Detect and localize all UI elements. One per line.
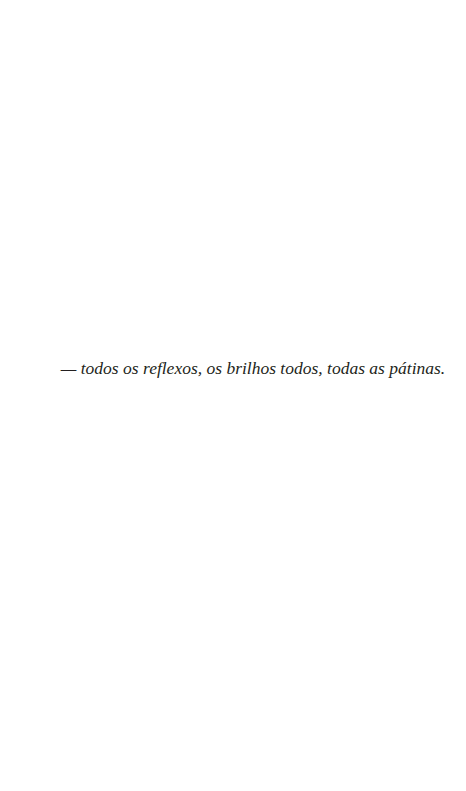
epigraph-line: — todos os reflexos, os brilhos todos, t… [0, 357, 466, 379]
book-page: — todos os reflexos, os brilhos todos, t… [0, 0, 466, 791]
